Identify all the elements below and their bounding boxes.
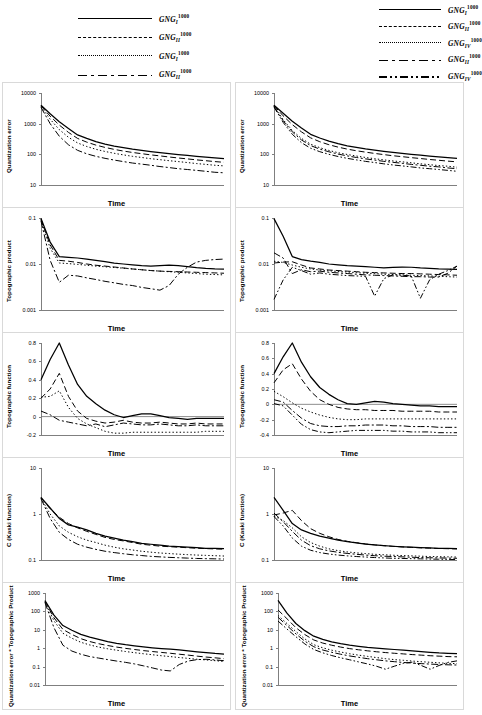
- x-axis: [278, 685, 457, 686]
- y-tick: [272, 560, 275, 561]
- y-tick-label: 0.6: [6, 358, 36, 364]
- legend-item-label: GNGII1000: [159, 31, 192, 43]
- y-tick-label: 0.2: [6, 395, 36, 401]
- x-axis: [41, 185, 224, 186]
- y-tick-label: 100: [239, 151, 269, 157]
- series-layer: [41, 218, 224, 310]
- plot-area: 0.0010.010.1: [41, 218, 224, 310]
- series-line: [41, 107, 224, 166]
- series-line: [41, 343, 224, 419]
- legend-line-dashdot-icon: [78, 71, 152, 78]
- chart-panel: Quantization errorTime10100100010000: [2, 82, 231, 210]
- y-tick-label: 10000: [6, 90, 36, 96]
- plot-area: 10100100010000: [41, 93, 224, 185]
- series-layer: [274, 343, 457, 435]
- plot-area: -0.200.20.40.60.8: [41, 343, 224, 435]
- x-axis: [45, 685, 224, 686]
- series-line: [274, 106, 457, 162]
- y-tick-label: 10: [6, 182, 36, 188]
- y-tick: [272, 310, 275, 311]
- y-tick-label: 0.1: [10, 664, 40, 670]
- y-tick: [276, 685, 279, 686]
- series-layer: [278, 593, 457, 685]
- y-axis-label: Topographic product: [238, 208, 245, 334]
- legend-item-label: GNGI1000: [448, 4, 478, 16]
- legend-item-label: GNGI1000: [159, 50, 189, 62]
- y-tick-label: 100: [243, 608, 273, 614]
- y-tick: [39, 560, 42, 561]
- x-axis: [41, 310, 224, 311]
- x-axis: [41, 435, 224, 436]
- plot-area: 0.1110: [41, 468, 224, 560]
- y-tick-label: 100: [6, 151, 36, 157]
- y-tick: [39, 310, 42, 311]
- y-tick-label: -0.2: [6, 432, 36, 438]
- series-layer: [45, 593, 224, 685]
- y-tick: [272, 435, 275, 436]
- series-line: [41, 221, 224, 290]
- legend-line-dashdotdot-icon: [379, 72, 441, 79]
- x-axis: [41, 560, 224, 561]
- legend-line-solid-icon: [78, 15, 152, 22]
- y-axis-label: Topographic product: [5, 208, 12, 334]
- y-tick-label: 0.1: [6, 215, 36, 221]
- legend-item-label: GNGII1000: [448, 20, 481, 32]
- y-tick-label: 0.001: [239, 307, 269, 313]
- y-tick-label: 0.4: [6, 377, 36, 383]
- y-axis-label: Topographic function: [238, 333, 245, 459]
- legend-item: GNGII1000: [379, 22, 466, 31]
- x-axis-label: Time: [236, 699, 463, 708]
- y-tick-label: 10000: [239, 90, 269, 96]
- series-line: [274, 107, 457, 171]
- chart-panel: Topographic productTime0.0010.010.1: [2, 207, 231, 335]
- plot-area: 0.0010.010.1: [274, 218, 457, 310]
- y-tick-label: 100: [10, 608, 40, 614]
- series-line: [41, 499, 224, 559]
- y-axis-label: Quantization error: [5, 83, 12, 209]
- y-tick-label: 0.1: [243, 664, 273, 670]
- y-tick-label: 0.001: [6, 307, 36, 313]
- legend-item: GNGI1000: [78, 14, 233, 23]
- legend-line-dashed-icon: [78, 34, 152, 41]
- y-tick-label: 0.01: [239, 261, 269, 267]
- chart-panel: Quantization error * Topographic Product…: [235, 582, 464, 710]
- series-layer: [274, 468, 457, 560]
- series-line: [41, 220, 224, 275]
- legend-left: GNGI1000GNGII1000GNGI1000GNGII1000: [0, 0, 233, 78]
- plot-area: 0.010.11101001000: [45, 593, 224, 685]
- legend-item: GNGI1000: [379, 5, 466, 14]
- x-axis: [274, 435, 457, 436]
- legend-line-dashdot-icon: [379, 56, 441, 63]
- legend-line-dotted-icon: [379, 39, 441, 46]
- x-axis: [274, 310, 457, 311]
- legend-line-solid-icon: [379, 6, 441, 13]
- y-tick-label: 10: [6, 465, 36, 471]
- chart-panel: C (Kaski function)Time0.1110: [235, 457, 464, 585]
- series-line: [274, 266, 457, 299]
- series-layer: [41, 93, 224, 185]
- series-layer: [41, 343, 224, 435]
- legend-right: GNGI1000GNGII1000GNGIV1000GNGII1000GNGIV…: [233, 0, 466, 78]
- y-tick-label: 1: [243, 645, 273, 651]
- chart-panel: C (Kaski function)Time0.1110: [2, 457, 231, 585]
- legend-item-label: GNGI1000: [159, 13, 189, 25]
- y-tick-label: 1000: [6, 121, 36, 127]
- series-line: [45, 601, 224, 655]
- series-layer: [274, 93, 457, 185]
- series-line: [274, 107, 457, 169]
- y-tick-label: 0.1: [239, 557, 269, 563]
- chart-panel: Topographic functionTime-0.200.20.40.60.…: [2, 332, 231, 460]
- series-line: [45, 603, 224, 671]
- x-axis: [274, 185, 457, 186]
- series-line: [45, 602, 224, 661]
- series-line: [278, 621, 457, 669]
- legend-line-dotted-icon: [78, 52, 152, 59]
- plot-area: 10100100010000: [274, 93, 457, 185]
- y-tick: [39, 435, 42, 436]
- chart-panel: Topographic productTime0.0010.010.1: [235, 207, 464, 335]
- legend-item: GNGII1000: [78, 33, 233, 42]
- series-line: [41, 106, 224, 162]
- chart-panel: Topographic functionTime-0.4-0.200.20.40…: [235, 332, 464, 460]
- series-line: [274, 219, 457, 270]
- y-tick-label: 10: [10, 627, 40, 633]
